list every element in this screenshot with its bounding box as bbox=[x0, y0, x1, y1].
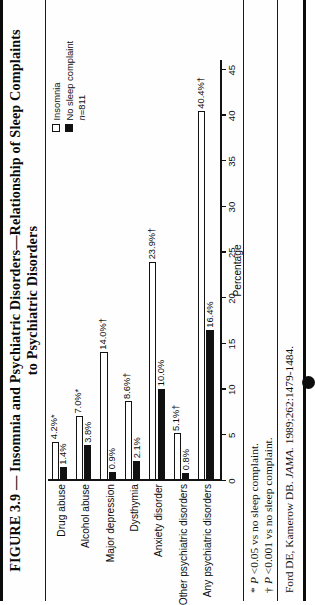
bar-no-sleep-complaint bbox=[109, 472, 116, 480]
bar-value-label: 1.4% bbox=[59, 444, 68, 465]
bar-insomnia bbox=[125, 401, 132, 480]
category-label: Any psychiatric disorders bbox=[198, 484, 217, 597]
value-axis-title: Percentage bbox=[232, 60, 243, 481]
figure-citation: Ford DE, Kamerow DB. JAMA. 1989;262:1479… bbox=[282, 8, 296, 593]
bar-value-label: 8.6%† bbox=[123, 373, 132, 399]
category-label: Major depression bbox=[101, 484, 120, 562]
bar-no-sleep-complaint bbox=[84, 445, 91, 480]
bar-group: 14.0%†0.9% bbox=[99, 60, 118, 480]
value-axis-tick bbox=[220, 69, 226, 70]
bar-value-label: 23.9%† bbox=[148, 228, 157, 260]
footnote-text: <0.001 vs no sleep complaint. bbox=[262, 437, 274, 574]
citation-details: 1989;262:1479-1484. bbox=[283, 346, 295, 447]
bar-groups: 4.2%*1.4%7.0%*3.8%14.0%†0.9%8.6%†2.1%23.… bbox=[48, 60, 219, 480]
category-label: Other psychiatric disorders bbox=[174, 484, 193, 605]
citation-journal: JAMA. bbox=[283, 447, 295, 478]
footnote-mark: * bbox=[247, 584, 261, 593]
scan-page-edge-bottom bbox=[303, 0, 306, 601]
footnote-p-italic: P bbox=[248, 577, 260, 584]
bar-value-label: 5.1%† bbox=[172, 405, 181, 431]
bar-value-label: 7.0%* bbox=[74, 389, 83, 414]
value-axis-tick bbox=[220, 160, 226, 161]
value-axis-tick bbox=[220, 434, 226, 435]
value-axis-line bbox=[220, 60, 222, 481]
footnote-text: <0.05 vs no sleep complaint. bbox=[248, 443, 260, 574]
scan-artifact-blob bbox=[302, 376, 315, 389]
bar-value-label: 4.2%* bbox=[50, 414, 59, 439]
figure-title: FIGURE 3.9 — Insomnia and Psychiatric Di… bbox=[3, 0, 45, 601]
bar-value-label: 0.9% bbox=[108, 448, 117, 469]
footnote-p-italic: P bbox=[262, 577, 274, 584]
bar-value-label: 40.4%† bbox=[197, 77, 206, 109]
bar-no-sleep-complaint bbox=[60, 467, 67, 480]
category-label: Drug abuse bbox=[52, 484, 71, 537]
figure-title-line-2: to Psychiatric Disorders bbox=[24, 226, 41, 375]
bar-insomnia bbox=[174, 433, 181, 480]
bar-no-sleep-complaint bbox=[206, 330, 213, 480]
value-axis-tick bbox=[220, 206, 226, 207]
chart-plot-area: Insomnia No sleep complaint n=811 Drug a… bbox=[46, 0, 243, 601]
footnote-item: *P <0.05 vs no sleep complaint. bbox=[247, 8, 261, 593]
bar-value-label: 3.8% bbox=[84, 422, 93, 443]
bar-group: 40.4%†16.4% bbox=[197, 60, 216, 480]
value-axis-tick bbox=[220, 297, 226, 298]
category-label: Anxiety disorder bbox=[149, 484, 168, 557]
footnote-mark: † bbox=[261, 584, 275, 593]
bar-group: 23.9%†10.0% bbox=[148, 60, 167, 480]
bar-group: 8.6%†2.1% bbox=[123, 60, 142, 480]
value-axis-tick bbox=[220, 480, 226, 481]
bar-value-label: 2.1% bbox=[133, 437, 142, 458]
bar-insomnia bbox=[198, 111, 205, 480]
footnote-list: *P <0.05 vs no sleep complaint. †P <0.00… bbox=[247, 8, 275, 593]
footnote-item: †P <0.001 vs no sleep complaint. bbox=[261, 8, 275, 593]
value-axis-tick bbox=[220, 388, 226, 389]
bar-value-label: 16.4% bbox=[206, 301, 215, 327]
bar-value-label: 0.8% bbox=[182, 449, 191, 470]
bar-no-sleep-complaint bbox=[133, 461, 140, 480]
bar-group: 4.2%*1.4% bbox=[50, 60, 69, 480]
value-axis-tick bbox=[220, 343, 226, 344]
bar-value-label: 10.0% bbox=[157, 360, 166, 386]
bar-group: 5.1%†0.8% bbox=[172, 60, 191, 480]
bar-no-sleep-complaint bbox=[158, 389, 165, 480]
value-axis-tick bbox=[220, 251, 226, 252]
bar-value-label: 14.0%† bbox=[99, 318, 108, 350]
bar-no-sleep-complaint bbox=[182, 473, 189, 480]
value-axis-tick bbox=[220, 115, 226, 116]
category-label: Dysthymia bbox=[125, 484, 144, 532]
value-axis: 051015202530354045 bbox=[220, 60, 229, 481]
citation-divider bbox=[277, 0, 278, 601]
bar-group: 7.0%*3.8% bbox=[74, 60, 93, 480]
category-axis-labels: Drug abuseAlcohol abuseMajor depressionD… bbox=[48, 481, 219, 597]
footnote-divider bbox=[243, 0, 244, 601]
category-label: Alcohol abuse bbox=[76, 484, 95, 548]
figure-title-line-1: FIGURE 3.9 — Insomnia and Psychiatric Di… bbox=[7, 29, 24, 572]
citation-authors: Ford DE, Kamerow DB. bbox=[283, 478, 295, 593]
